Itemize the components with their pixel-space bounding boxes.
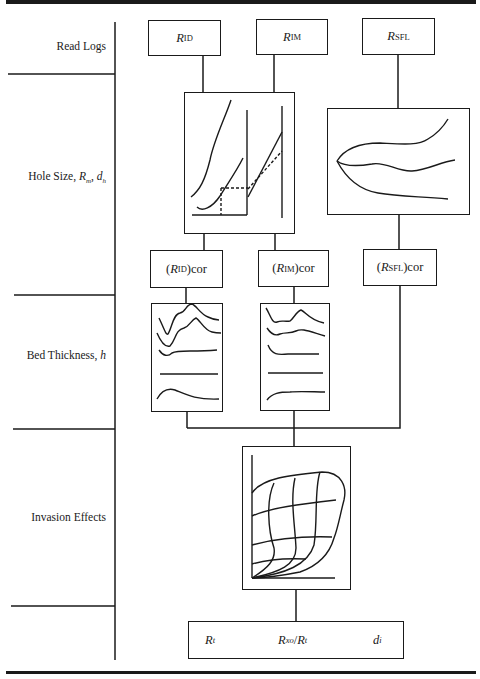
corrected-box-rid: (RID)cor xyxy=(150,250,223,288)
result-box: Rt Rxo/Rt di xyxy=(188,621,404,659)
hole-size-chart-box xyxy=(184,92,295,234)
corrected-box-rim: (RIM)cor xyxy=(258,250,329,287)
invasion-effects-chart-box xyxy=(242,446,351,590)
row-label-invasion-effects: Invasion Effects xyxy=(31,511,106,523)
result-di: di xyxy=(373,622,382,658)
row-label-hole-size: Hole Size, Rm, dh xyxy=(28,170,106,185)
row-label-bed-thickness: Bed Thickness, h xyxy=(27,349,106,361)
sfl-chart-box xyxy=(327,108,470,215)
result-rxo-over-rt: Rxo/Rt xyxy=(278,622,307,658)
result-rt: Rt xyxy=(205,622,215,658)
corrected-box-rsfl: (RSFL)cor xyxy=(363,249,437,286)
log-box-rid: RID xyxy=(148,20,221,56)
row-label-read-logs: Read Logs xyxy=(56,40,106,52)
bed-thickness-chart-box-2 xyxy=(260,303,330,411)
bed-thickness-chart-box-1 xyxy=(151,303,223,412)
log-box-rim: RIM xyxy=(256,19,328,55)
log-box-rsfl: RSFL xyxy=(362,18,435,55)
